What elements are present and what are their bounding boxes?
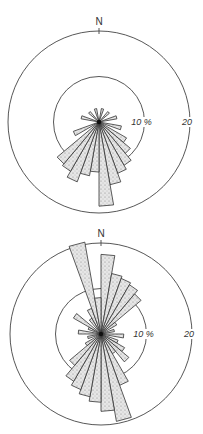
north-label: N (95, 16, 102, 27)
center-point (99, 332, 103, 336)
ring-label-20: 20 (183, 329, 194, 339)
ring-label-20: 20 (181, 117, 192, 127)
rose-diagram-bottom: N10 %20 (0, 217, 203, 434)
rose-svg-bottom: N10 %20 (0, 217, 203, 434)
rose-svg-top: N10 %20 (0, 0, 203, 217)
center-point (97, 120, 101, 124)
ring-label-10: 10 % (133, 329, 154, 339)
ring-label-10: 10 % (131, 117, 152, 127)
north-label: N (97, 228, 104, 239)
rose-diagram-top: N10 %20 (0, 0, 203, 217)
